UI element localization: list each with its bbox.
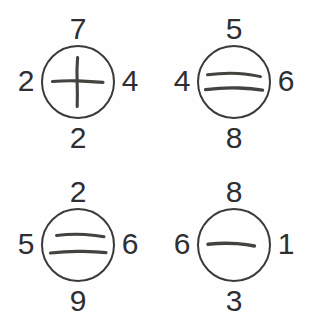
- circle-cell-bottom-left[interactable]: 2 5 6 9: [0, 163, 156, 326]
- circle-cell-top-right[interactable]: 5 4 6 8: [156, 0, 312, 163]
- number-label-left: 6: [164, 229, 200, 259]
- number-label-bottom: 9: [56, 286, 100, 316]
- circle-cell-bottom-right[interactable]: 8 6 1 3: [156, 163, 312, 326]
- number-label-left: 2: [8, 66, 44, 96]
- number-label-bottom: 3: [212, 286, 256, 316]
- number-label-bottom: 8: [212, 123, 256, 153]
- number-label-left: 5: [8, 229, 44, 259]
- diagram-canvas: 7 2 4 2 5 4 6 8 2 5 6 9 8 6: [0, 0, 312, 326]
- cross-mark-icon: [41, 45, 115, 119]
- number-label-right: 4: [112, 66, 148, 96]
- number-label-top: 7: [56, 14, 100, 44]
- circle-cell-top-left[interactable]: 7 2 4 2: [0, 0, 156, 163]
- number-label-right: 6: [112, 229, 148, 259]
- dash-mark-icon: [197, 208, 271, 282]
- number-label-left: 4: [164, 66, 200, 96]
- equals-mark-icon: [197, 45, 271, 119]
- number-label-top: 2: [56, 177, 100, 207]
- equals-mark-icon: [41, 208, 115, 282]
- number-label-right: 1: [268, 229, 304, 259]
- number-label-right: 6: [268, 66, 304, 96]
- number-label-top: 5: [212, 14, 256, 44]
- number-label-top: 8: [212, 177, 256, 207]
- number-label-bottom: 2: [56, 123, 100, 153]
